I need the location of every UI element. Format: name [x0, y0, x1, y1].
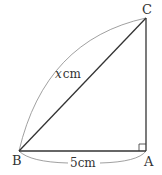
vertex-label-c: C: [142, 2, 152, 17]
vertex-label-a: A: [143, 154, 154, 169]
vertex-label-b: B: [12, 153, 22, 168]
side-bc-hypotenuse: [19, 18, 146, 151]
base-label: 5cm: [70, 156, 96, 170]
hypotenuse-label: xcm: [55, 67, 82, 81]
base-brace-arc-right: [100, 151, 146, 163]
right-angle-marker: [139, 144, 146, 151]
triangle-diagram: C B A xcm 5cm: [0, 0, 162, 175]
base-brace-arc-left: [19, 151, 68, 163]
hypotenuse-unit: cm: [63, 67, 82, 81]
hypotenuse-variable: x: [55, 67, 62, 81]
